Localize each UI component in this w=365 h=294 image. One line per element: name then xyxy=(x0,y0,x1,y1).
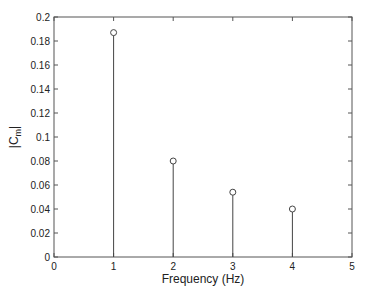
axes-box xyxy=(54,17,352,257)
stem-marker xyxy=(170,158,176,164)
y-tick-label: 0.2 xyxy=(36,12,50,23)
stem xyxy=(230,189,236,257)
y-tick-label: 0.1 xyxy=(36,132,50,143)
stem-marker xyxy=(230,189,236,195)
svg-text:|Cm|: |Cm| xyxy=(7,126,23,148)
y-tick-label: 0.12 xyxy=(31,108,51,119)
y-tick-label: 0.06 xyxy=(31,180,51,191)
y-tick-label: 0.18 xyxy=(31,36,51,47)
stem xyxy=(170,158,176,257)
x-axis-ticks: 012345 xyxy=(51,17,355,272)
x-tick-label: 1 xyxy=(111,261,117,272)
plot-area xyxy=(54,17,352,257)
x-tick-label: 0 xyxy=(51,261,57,272)
y-tick-label: 0.02 xyxy=(31,228,51,239)
y-tick-label: 0.08 xyxy=(31,156,51,167)
stem xyxy=(289,206,295,257)
y-axis-ticks: 00.020.040.060.080.10.120.140.160.180.2 xyxy=(31,12,352,263)
y-tick-label: 0.14 xyxy=(31,84,51,95)
x-tick-label: 4 xyxy=(290,261,296,272)
x-tick-label: 2 xyxy=(170,261,176,272)
y-tick-label: 0.04 xyxy=(31,204,51,215)
stem-chart: 00.020.040.060.080.10.120.140.160.180.2 … xyxy=(0,0,365,294)
x-axis-label: Frequency (Hz) xyxy=(162,272,245,286)
x-tick-label: 3 xyxy=(230,261,236,272)
stem-marker xyxy=(289,206,295,212)
y-tick-label: 0 xyxy=(44,252,50,263)
y-tick-label: 0.16 xyxy=(31,60,51,71)
x-tick-label: 5 xyxy=(349,261,355,272)
y-axis-label: |Cm| xyxy=(7,126,23,148)
stem-marker xyxy=(111,30,117,36)
data-stems xyxy=(111,30,296,257)
stem xyxy=(111,30,117,257)
